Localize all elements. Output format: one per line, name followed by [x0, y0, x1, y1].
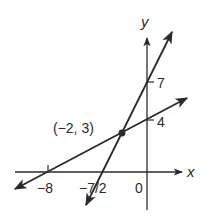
line-intersection-graph: x y (−2, 3) 7 4 −8 −7/2 0	[0, 0, 205, 216]
x-intercept-label-neg7-2: −7/2	[79, 180, 107, 196]
y-intercept-label-4: 4	[157, 114, 165, 130]
origin-label: 0	[135, 180, 143, 196]
intersection-point	[119, 130, 126, 137]
x-axis-label: x	[186, 163, 195, 180]
intersection-label: (−2, 3)	[53, 120, 94, 136]
y-axis-label: y	[140, 13, 150, 30]
y-intercept-label-7: 7	[157, 75, 165, 91]
x-intercept-label-neg8: −8	[37, 180, 53, 196]
